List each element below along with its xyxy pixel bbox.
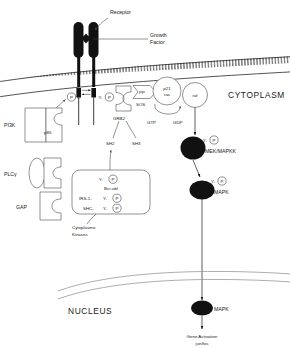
kinase-2-prefix: IRS-1-	[79, 196, 92, 201]
nucleus-label: NUCLEUS	[68, 306, 112, 316]
kinase-3-p: P	[116, 206, 119, 211]
protein-gap	[40, 192, 61, 220]
grb2-label: GRB2	[113, 116, 126, 121]
kinase-caption-leader	[87, 214, 96, 224]
phospho-p-right: P	[108, 95, 111, 100]
kinase-1-name: Bcr-abl	[104, 186, 118, 191]
sh2-label: SH2	[106, 141, 115, 146]
kinase-1-p: P	[112, 177, 115, 182]
gtp-gdp-cycle	[155, 104, 180, 114]
sos-pp-label: PP	[139, 90, 145, 95]
protein-pi3k: p85	[25, 108, 62, 142]
mapk-label: MAPK	[214, 189, 229, 195]
protein-p21ras: p21 ras	[153, 77, 181, 105]
kinase-caption-line2: Kinases	[72, 232, 88, 237]
kinase-3-prefix: SHC-	[83, 206, 94, 211]
pathway-diagram: Receptor Growth Factor CYTOPLASM P Y- Y-…	[0, 0, 290, 348]
mek-p-label: P	[213, 138, 216, 143]
receptor-phospho-right: Y- P	[98, 93, 113, 101]
kinase-2-y: Y-	[103, 196, 108, 201]
receptor-label: Receptor	[110, 9, 131, 15]
transphosphorylation-arrows	[82, 90, 91, 94]
protein-sos: PP	[133, 86, 156, 99]
nuclear-envelope	[58, 271, 290, 299]
phospho-y-right: Y-	[98, 95, 103, 100]
plcgamma-label: PLCγ	[4, 171, 17, 177]
mapk-p-label: P	[221, 179, 224, 184]
sos-label: SOS	[136, 102, 145, 107]
pi3k-subunit-label: p85	[44, 130, 52, 135]
junfos-label: jun/fos	[195, 341, 210, 346]
kinase-3-y: Y-	[103, 206, 108, 211]
growth-factor-label-line1: Growth	[150, 32, 167, 38]
kinase-to-sh2-arrow	[110, 150, 111, 170]
kinase-2-p: P	[116, 196, 119, 201]
gap-label: GAP	[16, 204, 27, 210]
cytoplasmic-kinases-box: Y- P Bcr-abl IRS-1- Y- P SHC- Y- P	[72, 170, 150, 214]
cytoplasm-label: CYTOPLASM	[228, 90, 285, 100]
nucleus-mapk-label: MAPK	[214, 306, 229, 312]
protein-raf: raf	[183, 83, 208, 108]
gene-activation-label: Gene Activation	[187, 334, 218, 339]
sh-domain-connectors	[113, 121, 136, 138]
p21ras-label-line2: ras	[164, 92, 171, 97]
mapk-y-label: Y-	[211, 179, 216, 184]
node-mek-mapkk: Y- P MEK/MAPKK	[181, 136, 237, 160]
sh3-label: SH3	[132, 141, 141, 146]
pi3k-label: PI3K	[4, 122, 16, 128]
kinase-1-y: Y-	[99, 177, 104, 182]
growth-factor-label-line2: Factor	[150, 39, 165, 45]
mek-mapkk-label: MEK/MAPKK	[205, 148, 236, 154]
adaptor-grb2	[116, 86, 131, 111]
phospho-y-left: Y-	[77, 95, 82, 100]
gdp-label: GDP	[173, 120, 183, 125]
raf-label: raf	[192, 93, 198, 98]
mek-y-label: Y-	[203, 138, 208, 143]
kinase-caption-line1: Cytoplasmic	[72, 225, 97, 230]
phospho-p-left: P	[70, 95, 73, 100]
gtp-label: GTP	[147, 120, 156, 125]
node-mapk-nucleus: MAPK	[191, 301, 229, 316]
node-mapk-cytoplasm: Y- P MAPK	[190, 177, 230, 200]
p21ras-label-line1: p21	[163, 86, 171, 91]
protein-plcgamma	[29, 158, 61, 188]
mek-to-mapk-arrow	[193, 160, 200, 177]
